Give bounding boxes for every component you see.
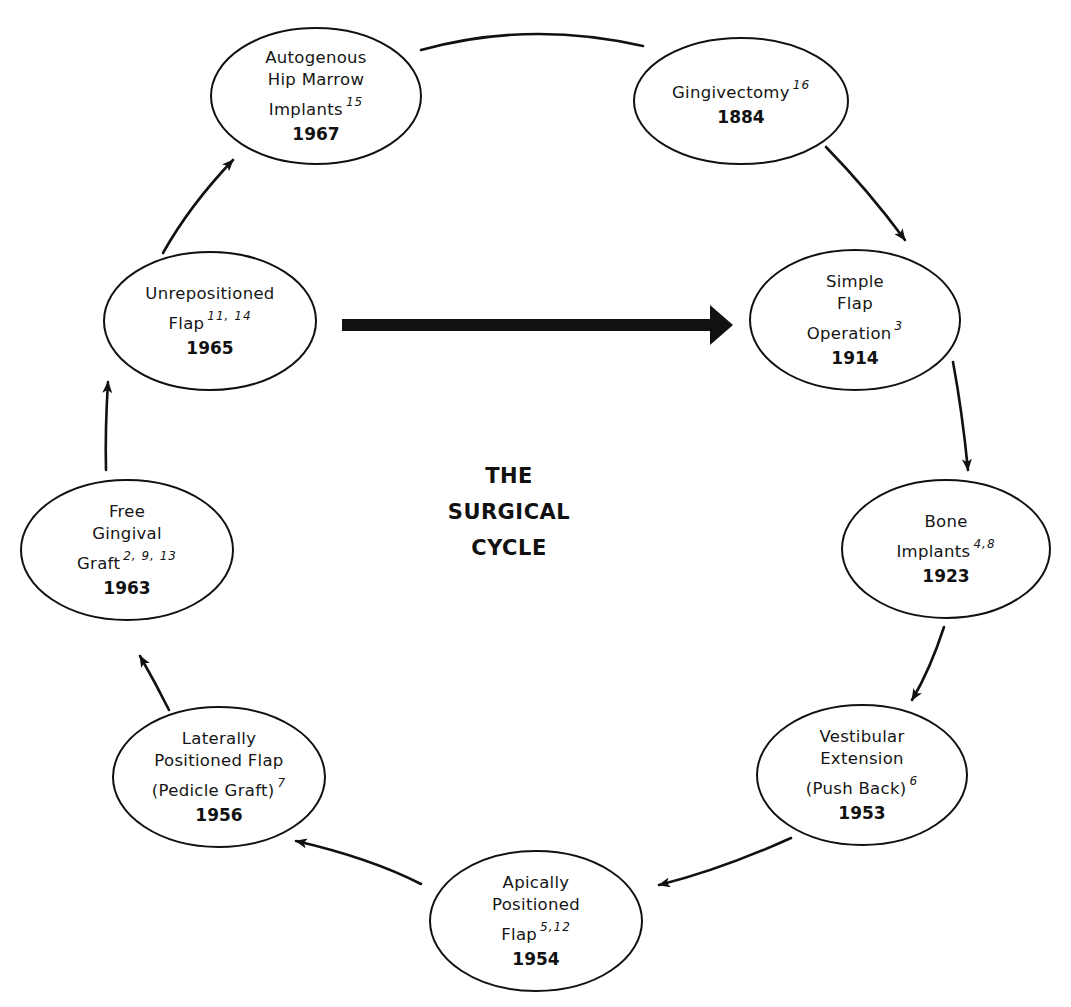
- title-line: CYCLE: [404, 530, 614, 566]
- arrow-vestibular-to-apically: [659, 838, 791, 885]
- node-gingivectomy: Gingivectomy16 1884: [634, 42, 848, 160]
- arrow-gingivectomy-to-simple-flap: [826, 147, 905, 240]
- node-label: Gingival: [92, 523, 162, 545]
- reference-superscript: 6: [910, 774, 919, 788]
- node-year: 1953: [838, 801, 885, 825]
- arrow-bone-implants-to-vestibular: [912, 627, 944, 700]
- reference-superscript: 5,12: [540, 920, 571, 934]
- node-autogenous-hip-marrow-implants: Autogenous Hip Marrow Implants15 1967: [211, 30, 421, 162]
- bold-arrow-unrepositioned-to-simple-flap: [342, 305, 733, 345]
- node-label: Simple: [826, 271, 884, 293]
- node-label: Flap11, 14: [168, 305, 251, 335]
- arrow-free-gingival-to-unrepositioned: [106, 382, 108, 470]
- node-label: Unrepositioned: [145, 283, 274, 305]
- node-label: Flap: [837, 293, 873, 315]
- node-label: Implants4,8: [896, 533, 995, 563]
- node-laterally-positioned-flap: Laterally Positioned Flap (Pedicle Graft…: [113, 709, 325, 845]
- caption-cutoff: [0, 1000, 1071, 1007]
- node-vestibular-extension: Vestibular Extension (Push Back)6 1953: [757, 707, 967, 843]
- arrow-apically-to-laterally: [296, 841, 421, 884]
- node-label: Autogenous: [265, 47, 367, 69]
- node-year: 1967: [292, 122, 339, 146]
- node-unrepositioned-flap: Unrepositioned Flap11, 14 1965: [104, 255, 316, 387]
- node-year: 1914: [831, 346, 878, 370]
- node-bone-implants: Bone Implants4,8 1923: [842, 484, 1050, 614]
- reference-superscript: 7: [278, 776, 287, 790]
- node-apically-positioned-flap: Apically Positioned Flap5,12 1954: [430, 853, 642, 989]
- node-year: 1963: [103, 576, 150, 600]
- title-line: THE: [404, 458, 614, 494]
- node-label: Operation3: [807, 315, 903, 345]
- node-label: (Pedicle Graft)7: [152, 772, 286, 802]
- node-year: 1884: [717, 105, 764, 129]
- node-year: 1965: [186, 336, 233, 360]
- node-label: Graft2, 9, 13: [77, 545, 177, 575]
- node-label: Vestibular: [819, 726, 904, 748]
- arrow-laterally-to-free-gingival: [140, 656, 169, 710]
- node-year: 1954: [512, 947, 559, 971]
- node-label: Free: [109, 501, 145, 523]
- node-simple-flap-operation: Simple Flap Operation3 1914: [750, 252, 960, 388]
- node-label: Hip Marrow: [268, 69, 365, 91]
- node-free-gingival-graft: Free Gingival Graft2, 9, 13 1963: [21, 482, 233, 618]
- node-label: (Push Back)6: [806, 770, 918, 800]
- node-label: Positioned Flap: [154, 750, 283, 772]
- node-label: Positioned: [492, 894, 580, 916]
- arrow-unrepositioned-to-autogenous: [163, 160, 233, 253]
- connector-autogenous-to-gingivectomy: [421, 34, 643, 50]
- node-label: Laterally: [182, 728, 256, 750]
- node-label: Apically: [503, 872, 570, 894]
- reference-superscript: 2, 9, 13: [123, 549, 177, 563]
- diagram-title: THE SURGICAL CYCLE: [404, 458, 614, 566]
- node-label: Gingivectomy16: [672, 74, 810, 104]
- node-year: 1923: [922, 564, 969, 588]
- node-label: Extension: [820, 748, 904, 770]
- reference-superscript: 11, 14: [207, 309, 251, 323]
- node-year: 1956: [195, 803, 242, 827]
- reference-superscript: 15: [346, 95, 363, 109]
- node-label: Flap5,12: [501, 916, 571, 946]
- node-label: Implants15: [269, 91, 363, 121]
- title-line: SURGICAL: [404, 494, 614, 530]
- reference-superscript: 3: [895, 319, 904, 333]
- node-label: Bone: [924, 511, 967, 533]
- reference-superscript: 16: [793, 78, 810, 92]
- reference-superscript: 4,8: [973, 537, 995, 551]
